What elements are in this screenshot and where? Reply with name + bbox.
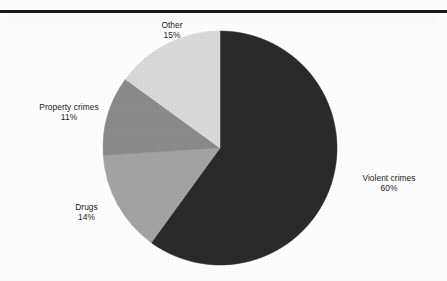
pie-plot-area bbox=[0, 0, 447, 281]
slice-label-drugs-pct: 14% bbox=[63, 212, 110, 222]
slice-label-property-crimes: Property crimes 11% bbox=[27, 102, 111, 123]
slice-label-other: Other 15% bbox=[146, 20, 198, 41]
slice-label-other-name: Other bbox=[161, 20, 182, 30]
slice-label-drugs-name: Drugs bbox=[75, 202, 98, 212]
pie-chart-figure: Other 15% Property crimes 11% Drugs 14% … bbox=[0, 0, 447, 281]
pie-slice-group bbox=[103, 31, 337, 265]
slice-label-drugs: Drugs 14% bbox=[63, 202, 110, 223]
slice-label-property-crimes-name: Property crimes bbox=[39, 102, 98, 112]
pie-svg bbox=[0, 0, 447, 281]
slice-label-other-pct: 15% bbox=[146, 30, 198, 40]
slice-label-property-crimes-pct: 11% bbox=[27, 112, 111, 122]
slice-label-violent-crimes-name: Violent crimes bbox=[362, 173, 415, 183]
slice-label-violent-crimes: Violent crimes 60% bbox=[349, 173, 429, 194]
slice-label-violent-crimes-pct: 60% bbox=[349, 183, 429, 193]
